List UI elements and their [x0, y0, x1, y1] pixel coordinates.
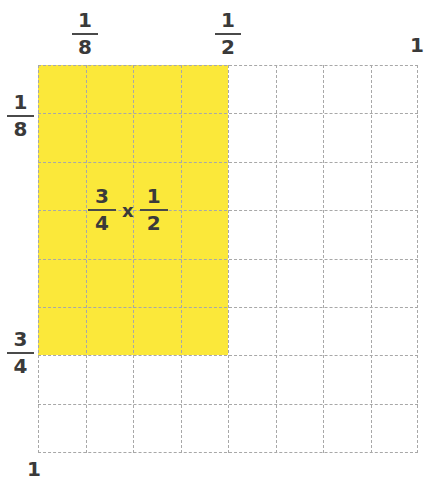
grid-line	[38, 259, 418, 260]
denominator: 2	[221, 36, 235, 58]
grid-line	[38, 65, 418, 66]
grid-line	[38, 307, 418, 308]
grid-line	[38, 404, 418, 405]
grid-line	[38, 113, 418, 114]
expression-right-fraction: 1 2	[140, 185, 168, 234]
times-symbol: x	[122, 200, 134, 221]
multiplication-expression: 3 4 x 1 2	[88, 185, 168, 234]
top-label-one-half: 1 2	[215, 9, 241, 58]
numerator: 3	[14, 328, 28, 350]
numerator: 3	[95, 185, 109, 207]
area-model-grid	[38, 65, 418, 453]
left-label-one: 1	[27, 458, 41, 480]
left-label-one-eighth: 1 8	[7, 91, 34, 140]
numerator: 1	[221, 9, 235, 31]
grid-line	[38, 162, 418, 163]
denominator: 8	[78, 36, 92, 58]
numerator: 1	[14, 91, 28, 113]
numerator: 1	[147, 185, 161, 207]
denominator: 4	[14, 355, 28, 377]
grid-line	[38, 452, 418, 453]
grid-line	[38, 355, 418, 356]
top-label-one: 1	[410, 34, 424, 56]
denominator: 8	[14, 118, 28, 140]
top-label-one-eighth: 1 8	[72, 9, 98, 58]
denominator: 4	[95, 212, 109, 234]
denominator: 2	[147, 212, 161, 234]
left-label-three-quarters: 3 4	[7, 328, 34, 377]
numerator: 1	[78, 9, 92, 31]
expression-left-fraction: 3 4	[88, 185, 116, 234]
